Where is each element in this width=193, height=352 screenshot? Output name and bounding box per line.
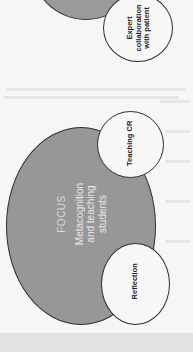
reflection-label: Reflection (131, 244, 140, 318)
reflection-circle: Reflection (101, 243, 170, 325)
focus-label: FOCUS Metacognition and teaching student… (56, 139, 108, 289)
concept-diagram: Expert collaboration with patient FOCUS … (0, 0, 193, 352)
expert-collaboration-label: Expert collaboration with patient (126, 0, 152, 71)
expert-collaboration-circle: Expert collaboration with patient (103, 0, 173, 62)
teaching-cr-circle: Teaching CR (97, 111, 164, 178)
teaching-cr-label: Teaching CR (126, 107, 135, 179)
focus-title: FOCUS (56, 139, 68, 289)
